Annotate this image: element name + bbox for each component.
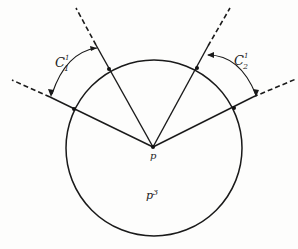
ray-2-solid: [50, 97, 153, 147]
ray-3-dashed: [208, 8, 230, 46]
angle-arc-c2: [208, 55, 256, 95]
diagram-canvas: C 1 1 C 2 1 p p 3: [0, 0, 298, 249]
diagram-svg: C 1 1 C 2 1 p p 3: [0, 0, 298, 249]
ray-4-dashed: [253, 79, 296, 97]
ray-2-dashed: [12, 80, 50, 97]
ray-3-solid: [153, 46, 208, 147]
label-c1-sub: 1: [64, 64, 69, 73]
intersection-dot-2: [72, 107, 76, 111]
point-p-dot: [151, 145, 155, 149]
label-point-p: p: [150, 150, 157, 161]
label-c2-sub: 2: [242, 62, 248, 71]
intersection-dot-3: [195, 66, 199, 70]
arrowhead-icon: [90, 46, 97, 51]
ray-1-dashed: [76, 8, 96, 45]
label-c2-sup: 1: [244, 52, 248, 60]
label-region-sup: 3: [153, 188, 158, 197]
arrowhead-icon: [207, 52, 214, 58]
intersection-dot-4: [232, 106, 236, 110]
label-c1-sup: 1: [65, 54, 69, 62]
label-region-p: p: [146, 189, 153, 202]
intersection-dot-1: [107, 67, 111, 71]
